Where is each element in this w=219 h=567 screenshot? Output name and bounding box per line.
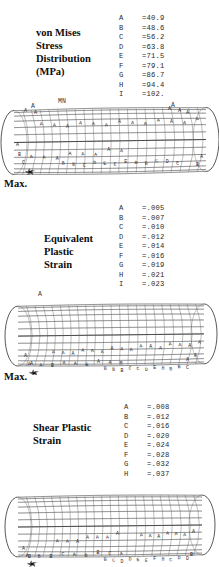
svg-text:B: B [134, 160, 137, 165]
title-line: Strain [44, 258, 124, 271]
svg-text:B: B [50, 554, 53, 559]
svg-text:A: A [110, 346, 113, 351]
legend-row: H=94.4 [119, 81, 165, 91]
svg-text:A: A [192, 529, 195, 534]
svg-text:A: A [143, 121, 147, 126]
svg-text:A: A [90, 348, 94, 353]
legend-key: E [119, 242, 142, 252]
legend-key: G [124, 460, 147, 470]
svg-text:A: A [100, 349, 103, 354]
svg-text:C: C [155, 158, 158, 163]
svg-text:A: A [97, 359, 100, 364]
svg-text:C: C [22, 160, 25, 166]
svg-text:A: A [55, 538, 59, 543]
section-header: Equivalent Plastic Strain A=.005 B=.007 … [0, 190, 219, 295]
svg-text:A: A [76, 539, 79, 544]
legend-value: =.021 [142, 271, 165, 281]
svg-text:C: C [129, 365, 132, 370]
legend-value: =.014 [142, 242, 165, 252]
svg-text:A: A [72, 552, 76, 557]
svg-text:B: B [72, 162, 75, 167]
svg-text:A: A [120, 346, 123, 351]
svg-text:A: A [120, 148, 123, 153]
legend-row: E=71.5 [119, 52, 165, 62]
legend-row: A=40.9 [119, 14, 165, 24]
legend-key: D [124, 432, 147, 442]
legend-value: =79.1 [142, 62, 165, 72]
svg-text:A: A [148, 533, 151, 538]
svg-text:A: A [73, 361, 77, 366]
legend-key: C [119, 223, 142, 233]
svg-text:E: E [136, 557, 140, 562]
title-line: Shear Plastic [33, 421, 125, 434]
legend-row: I=102. [119, 90, 165, 100]
legend-key: I [119, 90, 142, 100]
svg-text:A: A [95, 534, 99, 539]
legend-row: B=.012 [124, 413, 170, 423]
legend-row: E=.014 [119, 242, 165, 252]
figure-page: von Mises Stress Distribution (MPa) A=40… [0, 0, 219, 567]
svg-text:A: A [29, 154, 33, 159]
svg-text:B: B [190, 552, 193, 558]
svg-text:A: A [86, 535, 89, 540]
svg-text:B: B [84, 553, 87, 558]
section-title: Equivalent Plastic Strain [44, 232, 124, 271]
legend-value: =.024 [147, 441, 170, 451]
legend-row: A=.008 [124, 403, 170, 413]
svg-text:B: B [161, 557, 164, 562]
svg-text:C: C [83, 163, 86, 168]
title-line: Distribution [36, 52, 128, 65]
svg-text:B: B [97, 550, 100, 555]
legend-row: G=.019 [119, 261, 165, 271]
svg-text:A: A [81, 348, 84, 353]
svg-text:B: B [103, 366, 107, 371]
svg-text:B: B [28, 554, 31, 560]
svg-text:B: B [61, 160, 65, 165]
svg-text:B: B [169, 366, 173, 371]
legend-row: H=.037 [124, 470, 170, 480]
legend-value: =48.6 [142, 24, 165, 34]
legend-key: I [119, 280, 142, 290]
svg-text:A: A [131, 120, 134, 125]
svg-text:D: D [120, 559, 123, 564]
svg-text:A: A [198, 340, 201, 345]
svg-text:A: A [69, 151, 72, 156]
cylinder-plot-equivalent-plastic-strain: AAAAAAAAAAAAAAAAAABAABAABBBBCCDEBBBCAAAA… [0, 295, 219, 375]
svg-text:A: A [159, 345, 162, 350]
svg-text:E: E [153, 365, 156, 370]
svg-text:A: A [43, 155, 46, 160]
svg-text:B: B [37, 553, 40, 558]
legend-key: F [119, 252, 142, 262]
title-line: (MPa) [36, 65, 128, 78]
legend-value: =86.7 [142, 71, 165, 81]
legend-row: B=48.6 [119, 24, 165, 34]
legend-row: F=79.1 [119, 62, 165, 72]
svg-text:A: A [39, 362, 42, 367]
legend-value: =102. [142, 90, 165, 100]
svg-text:A: A [66, 538, 69, 543]
svg-text:A: A [106, 535, 109, 540]
svg-text:A: A [168, 341, 172, 346]
legend-value: =71.5 [142, 52, 165, 62]
svg-text:D: D [145, 367, 148, 372]
svg-text:C: C [186, 365, 189, 370]
legend-value: =63.8 [142, 43, 165, 53]
svg-text:D: D [166, 159, 169, 164]
title-line: Stress [36, 39, 128, 52]
legend-key: E [119, 52, 142, 62]
legend-key: D [119, 43, 142, 53]
section-equivalent-plastic-strain: Equivalent Plastic Strain A=.005 B=.007 … [0, 190, 219, 295]
svg-text:B: B [178, 364, 181, 369]
svg-text:A: A [53, 122, 56, 127]
legend-key: D [119, 233, 142, 243]
svg-text:A: A [71, 351, 74, 356]
legend-value: =.008 [147, 403, 170, 413]
svg-text:E: E [176, 160, 179, 165]
contour-label-top-right: A [171, 102, 175, 109]
legend-row: H=.021 [119, 271, 165, 281]
legend-value: =.012 [147, 413, 170, 423]
cylinder-mesh-svg: AAAAAAAAAAAAAAAAAABAABAABBBBCCDEBBBCAAAA [0, 295, 219, 375]
legend-equivalent-plastic-strain: A=.005 B=.007 C=.010 D=.012 E=.014 F=.01… [119, 204, 165, 290]
svg-text:D: D [129, 556, 132, 561]
legend-key: A [119, 14, 142, 24]
